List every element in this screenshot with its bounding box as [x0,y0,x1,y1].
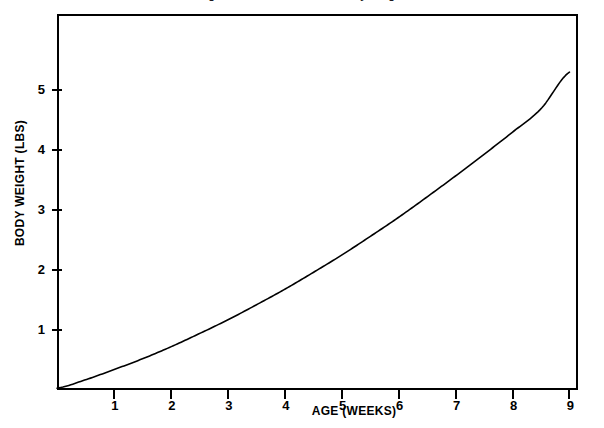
y-tick-4 [52,149,62,151]
x-axis-title-text: AGE (WEEKS) [312,404,397,418]
y-tick-label-2: 2 [19,263,45,276]
plot-frame [57,14,578,390]
y-tick-label-5: 5 [19,83,45,96]
y-axis-title: BODY WEIGHT (LBS) [13,103,27,263]
y-tick-5 [52,89,62,91]
y-tick-label-1: 1 [19,323,45,336]
growth-curve-figure: Figure 1. Growth curve of body weight 12… [0,0,604,428]
y-tick-2 [52,269,62,271]
y-tick-3 [52,209,62,211]
x-axis-title: AGE (WEEKS) [0,404,604,418]
figure-title-clipped: Figure 1. Growth curve of body weight [0,0,604,2]
y-tick-1 [52,329,62,331]
